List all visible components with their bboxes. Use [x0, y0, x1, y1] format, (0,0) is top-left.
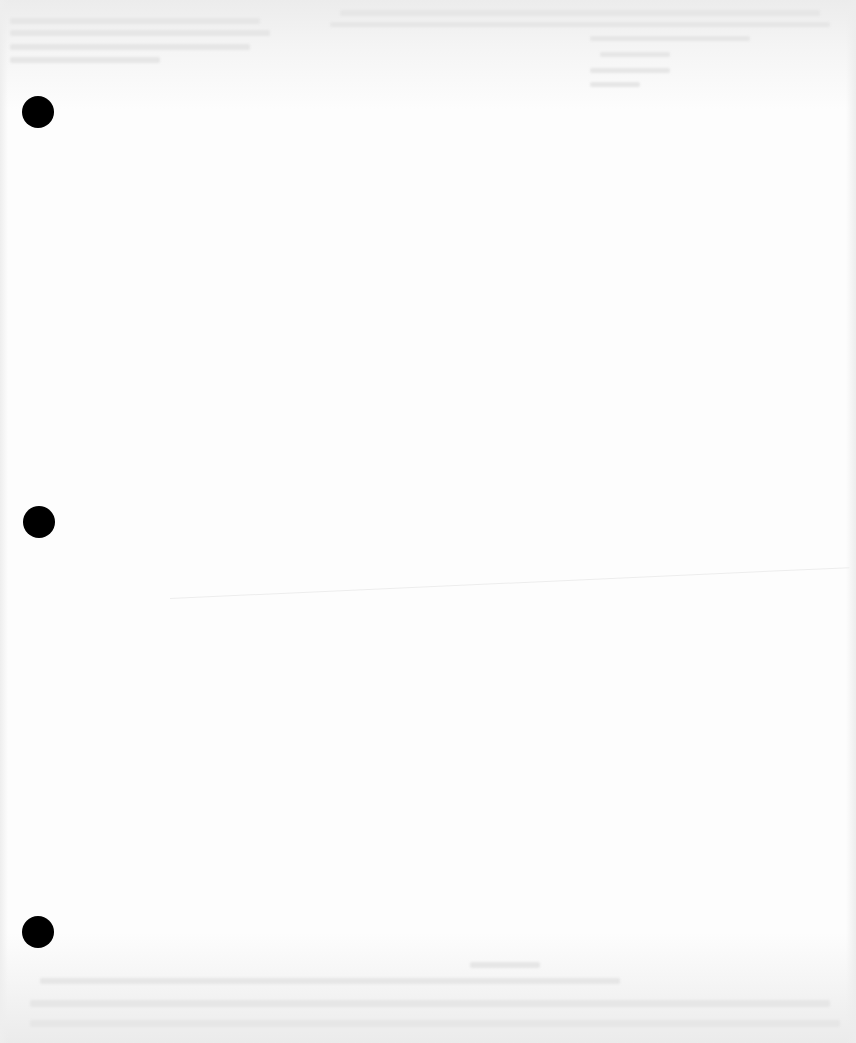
scan-shading-left	[0, 0, 8, 1043]
hole-punch-top	[22, 96, 54, 128]
hole-punch-bottom	[22, 916, 54, 948]
scan-shading-right	[846, 0, 856, 1043]
scan-shading-top	[0, 0, 856, 110]
hole-punch-middle	[23, 506, 55, 538]
scanned-page	[0, 0, 856, 1043]
paper-crease	[170, 567, 849, 599]
